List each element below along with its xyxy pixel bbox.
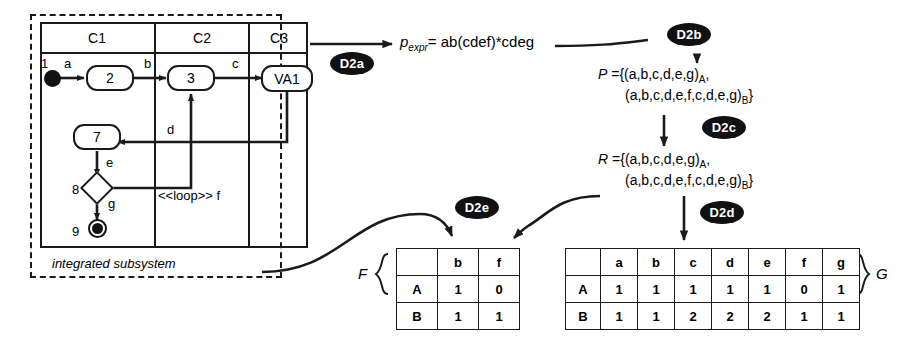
table-cell: 1: [601, 303, 638, 330]
table-cell: 2: [675, 303, 712, 330]
step-badge-d2d: D2d: [700, 201, 744, 224]
table-cell: 0: [786, 276, 823, 303]
table-f-grid: bfA10B11: [396, 248, 520, 330]
final-node: [88, 219, 107, 238]
step-badge-d2b: D2b: [667, 23, 711, 46]
table-cell: 1: [601, 276, 638, 303]
step-badge-d2e: D2e: [455, 196, 499, 219]
table-cell: 1: [823, 276, 860, 303]
action-node-7: 7: [73, 124, 121, 150]
lane-header-divider: [40, 52, 308, 54]
edge-label-e: e: [106, 155, 113, 170]
table-row-header: B: [397, 303, 438, 330]
table-cell: 0: [479, 276, 520, 303]
table-column-header: d: [712, 249, 749, 276]
path-set-p-second-line: (a,b,c,d,e,f,c,d,e,g)B}: [625, 87, 753, 106]
edge-label-loop: <<loop>> f: [158, 188, 220, 203]
table-cell: 2: [749, 303, 786, 330]
table-column-header: b: [638, 249, 675, 276]
table-column-header: b: [438, 249, 479, 276]
node-number-9: 9: [72, 222, 79, 240]
table-row: B11: [397, 303, 520, 330]
node-number-8: 8: [72, 180, 79, 198]
table-cell: 1: [438, 303, 479, 330]
edge-label-b: b: [144, 56, 151, 71]
table-cell: 1: [438, 276, 479, 303]
path-set-p: P ={(a,b,c,d,e,g)A,: [598, 66, 709, 85]
path-set-p-name: P: [598, 66, 607, 82]
table-cell: 1: [675, 276, 712, 303]
table-corner-cell: [566, 249, 601, 276]
path-set-r-line2-tail: }: [748, 172, 753, 188]
table-column-header: a: [601, 249, 638, 276]
table-g-grid: abcdefgA1111101B1122211: [565, 248, 860, 330]
swimlane-header-c3: C3: [250, 26, 308, 50]
table-column-header: g: [823, 249, 860, 276]
expression-subscript: expr: [408, 42, 427, 53]
action-node-va1: VA1: [261, 65, 313, 92]
table-row: B1122211: [566, 303, 860, 330]
table-g-label: G: [876, 265, 888, 282]
step-badge-d2a: D2a: [330, 52, 374, 75]
subsystem-label: integrated subsystem: [52, 256, 176, 271]
path-set-p-line2-tail: }: [748, 87, 753, 103]
edge-label-g: g: [108, 196, 115, 211]
node-number-1: 1: [41, 54, 48, 72]
edge-label-c: c: [232, 56, 239, 71]
table-cell: 2: [712, 303, 749, 330]
expression-equals: =: [428, 33, 437, 50]
table-g: abcdefgA1111101B1122211: [565, 248, 860, 330]
swimlane-header-c2: C2: [156, 26, 248, 50]
path-set-p-line1-tail: ,: [705, 66, 709, 82]
edge-label-d: d: [167, 122, 174, 137]
table-cell: 1: [638, 276, 675, 303]
expression-value: ab(cdef)*cdeg: [441, 33, 534, 50]
swimlane-header-c1: C1: [40, 26, 154, 50]
final-node-core: [92, 223, 103, 234]
path-set-r-equals: =: [612, 151, 620, 167]
table-cell: 1: [638, 303, 675, 330]
diagram-canvas: C1 C2 C3 1 2 3 VA1 7 8 9 a b c d e g <<l…: [0, 0, 914, 339]
action-node-3: 3: [167, 65, 215, 91]
table-row: A1111101: [566, 276, 860, 303]
path-set-r-line1: {(a,b,c,d,e,g): [620, 151, 699, 167]
table-cell: 1: [749, 276, 786, 303]
table-corner-cell: [397, 249, 438, 276]
table-row-header: A: [566, 276, 601, 303]
table-cell: 1: [823, 303, 860, 330]
table-row-header: B: [566, 303, 601, 330]
table-f-label: F: [358, 265, 367, 282]
table-column-header: e: [749, 249, 786, 276]
initial-node: [44, 70, 61, 87]
table-cell: 1: [712, 276, 749, 303]
step-badge-d2c: D2c: [702, 116, 746, 139]
table-f: bfA10B11: [396, 248, 520, 330]
lane-divider-c2-c3: [248, 22, 250, 248]
path-set-p-line2: (a,b,c,d,e,f,c,d,e,g): [625, 87, 742, 103]
table-row: A10: [397, 276, 520, 303]
table-column-header: f: [786, 249, 823, 276]
table-row-header: A: [397, 276, 438, 303]
lane-divider-c1-c2: [154, 22, 156, 248]
table-column-header: f: [479, 249, 520, 276]
path-set-r-line1-tail: ,: [706, 151, 710, 167]
path-set-r-line2: (a,b,c,d,e,f,c,d,e,g): [625, 172, 742, 188]
path-expression: pexpr= ab(cdef)*cdeg: [400, 33, 534, 53]
table-cell: 1: [479, 303, 520, 330]
path-set-r-second-line: (a,b,c,d,e,f,c,d,e,g)B}: [625, 172, 753, 191]
action-node-2: 2: [86, 65, 134, 91]
path-set-r-name: R: [598, 151, 608, 167]
table-cell: 1: [786, 303, 823, 330]
table-column-header: c: [675, 249, 712, 276]
path-set-r: R ={(a,b,c,d,e,g)A,: [598, 151, 710, 170]
path-set-p-line1: {(a,b,c,d,e,g): [619, 66, 698, 82]
edge-label-a: a: [64, 56, 71, 71]
